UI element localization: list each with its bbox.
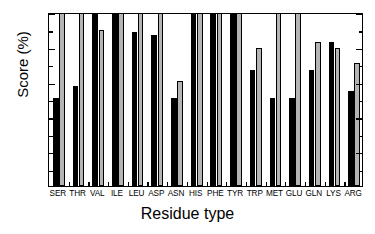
y-axis-major-tick (49, 118, 55, 119)
bar-glu-black (289, 98, 295, 186)
x-axis-tick-label-his: HIS (189, 189, 202, 198)
bar-phe-black (210, 13, 216, 186)
x-axis-tick (147, 182, 148, 186)
bar-tyr-black (230, 13, 236, 186)
y-axis-major-tick-right (356, 84, 362, 85)
bar-met-gray (276, 13, 282, 186)
x-axis-tick-label-leu: LEU (129, 189, 145, 198)
y-axis-major-tick-right (356, 49, 362, 50)
x-axis-tick-label-val: VAL (90, 189, 105, 198)
bar-asp-black (151, 35, 157, 186)
bar-leu-black (132, 32, 138, 186)
y-axis-title: Score (%) (14, 5, 31, 125)
bar-trp-gray (256, 48, 262, 186)
bar-val-black (92, 13, 98, 186)
x-axis-tick (108, 182, 109, 186)
y-axis-minor-tick-right (359, 171, 363, 172)
y-axis-major-tick-right (356, 118, 362, 119)
x-axis-tick (246, 182, 247, 186)
y-axis-major-tick (49, 14, 55, 15)
y-axis-major-tick-right (356, 14, 362, 15)
y-axis-minor-tick (49, 101, 53, 102)
y-axis-major-tick (49, 84, 55, 85)
bar-ser-gray (59, 13, 65, 186)
bar-ile-black (112, 13, 118, 186)
bar-asn-black (171, 98, 177, 186)
y-axis-major-tick (49, 49, 55, 50)
x-axis-tick-label-ser: SER (50, 189, 67, 198)
bar-thr-gray (79, 13, 85, 186)
bar-his-black (191, 13, 197, 186)
bar-arg-gray (354, 63, 360, 186)
x-axis-tick-label-thr: THR (69, 189, 86, 198)
bar-thr-black (73, 86, 79, 186)
bar-gln-gray (315, 42, 321, 186)
y-axis-major-tick (49, 153, 55, 154)
bar-his-gray (197, 13, 203, 186)
y-axis-major-tick-right (356, 153, 362, 154)
x-axis-tick (69, 182, 70, 186)
x-axis-tick-label-trp: TRP (247, 189, 263, 198)
bar-leu-gray (138, 13, 144, 186)
bar-tyr-gray (236, 13, 242, 186)
bar-arg-black (348, 91, 354, 186)
bar-val-gray (99, 30, 105, 186)
y-axis-minor-tick (49, 66, 53, 67)
bar-lys-black (329, 42, 335, 186)
x-axis-tick-label-met: MET (266, 189, 283, 198)
bar-met-black (270, 98, 276, 186)
x-axis-tick-label-ile: ILE (111, 189, 123, 198)
bar-gln-black (309, 70, 315, 186)
x-axis-tick-label-tyr: TYR (227, 189, 243, 198)
y-axis-minor-tick-right (359, 136, 363, 137)
x-axis-tick (187, 182, 188, 186)
y-axis-minor-tick (49, 31, 53, 32)
plot-area (48, 13, 363, 187)
bar-trp-black (250, 70, 256, 186)
bar-ser-black (53, 98, 59, 186)
bar-asn-gray (177, 81, 183, 186)
bar-ile-gray (118, 13, 124, 186)
x-axis-tick (285, 182, 286, 186)
x-axis-tick-label-asn: ASN (168, 189, 185, 198)
y-axis-minor-tick-right (359, 66, 363, 67)
x-axis-tick (88, 182, 89, 186)
x-axis-tick (305, 182, 306, 186)
bar-chart-figure: Score (%) 020406080100 SERTHRVALILELEUAS… (0, 0, 375, 234)
x-axis-tick-label-glu: GLU (286, 189, 303, 198)
x-axis-tick-label-lys: LYS (326, 189, 341, 198)
x-axis-tick-label-asp: ASP (148, 189, 164, 198)
x-axis-tick-label-gln: GLN (306, 189, 323, 198)
bar-asp-gray (158, 13, 164, 186)
x-axis-tick (325, 182, 326, 186)
x-axis-tick (226, 182, 227, 186)
x-axis-tick (207, 182, 208, 186)
x-axis-tick (128, 182, 129, 186)
bar-lys-gray (335, 48, 341, 186)
x-axis-title: Residue type (0, 205, 375, 223)
x-axis-tick (266, 182, 267, 186)
x-axis-tick-label-arg: ARG (344, 189, 361, 198)
bar-glu-gray (295, 13, 301, 186)
y-axis-minor-tick (49, 171, 53, 172)
y-axis-minor-tick-right (359, 101, 363, 102)
x-axis-tick (344, 182, 345, 186)
x-axis-tick-label-phe: PHE (207, 189, 224, 198)
bar-phe-gray (217, 13, 223, 186)
x-axis-tick (167, 182, 168, 186)
y-axis-minor-tick (49, 136, 53, 137)
y-axis-minor-tick-right (359, 31, 363, 32)
